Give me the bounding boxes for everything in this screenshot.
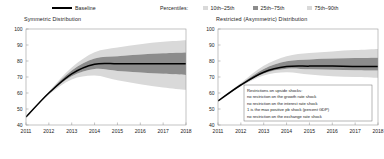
fan-chart-restricted: 4050607080901002011201220132014201520162…: [192, 25, 384, 151]
svg-text:40: 40: [17, 122, 23, 128]
legend-label-percentiles: Percentiles:: [160, 5, 188, 11]
legend-item-band-75-90: 75th–90th: [307, 5, 338, 11]
svg-text:40: 40: [209, 122, 215, 128]
legend-label-band-25-75: 25th–75th: [261, 5, 285, 11]
band-swatch-25-75: [253, 6, 258, 11]
panel-symmetric: Symmetric Distribution 40506070809010020…: [0, 16, 192, 159]
legend-item-band-25-75: 25th–75th: [253, 5, 284, 11]
legend-label-baseline: Baseline: [75, 5, 96, 11]
svg-text:no restriction on the interest: no restriction on the interest rate shoc…: [247, 101, 318, 106]
svg-text:100: 100: [14, 26, 23, 32]
svg-text:50: 50: [17, 106, 23, 112]
fan-chart-figure: Baseline Percentiles: 10th–25th 25th–75t…: [0, 0, 384, 159]
legend-percentiles-title: Percentiles:: [160, 5, 188, 11]
svg-text:80: 80: [209, 58, 215, 64]
svg-text:2016: 2016: [327, 128, 338, 134]
svg-text:2012: 2012: [43, 128, 54, 134]
svg-text:1 is the max positive pb shock: 1 is the max positive pb shock (percent …: [247, 107, 330, 112]
band-swatch-10-25: [203, 6, 208, 11]
plot-area-restricted: 4050607080901002011201220132014201520162…: [192, 25, 384, 151]
chart-legend: Baseline Percentiles: 10th–25th 25th–75t…: [0, 2, 384, 14]
svg-text:2011: 2011: [213, 128, 224, 134]
svg-text:2014: 2014: [89, 128, 100, 134]
svg-text:100: 100: [206, 26, 215, 32]
svg-text:2018: 2018: [180, 128, 191, 134]
svg-text:no restriction on the exchange: no restriction on the exchange rate shoc…: [247, 114, 323, 119]
plot-area-symmetric: 4050607080901002011201220132014201520162…: [0, 25, 192, 151]
svg-text:2011: 2011: [21, 128, 32, 134]
svg-text:no restriction on the growth r: no restriction on the growth rate shock: [247, 94, 317, 99]
legend-item-baseline: Baseline: [52, 5, 96, 11]
band-swatch-75-90: [307, 6, 312, 11]
svg-text:90: 90: [17, 42, 23, 48]
svg-text:70: 70: [209, 74, 215, 80]
svg-text:2018: 2018: [372, 128, 383, 134]
svg-text:50: 50: [209, 106, 215, 112]
svg-text:2017: 2017: [350, 128, 361, 134]
legend-item-band-10-25: 10th–25th: [203, 5, 234, 11]
panel-title-restricted: Restricted (Asymmetric) Distribution: [216, 16, 307, 22]
svg-text:80: 80: [17, 58, 23, 64]
svg-text:2015: 2015: [112, 128, 123, 134]
svg-text:2013: 2013: [66, 128, 77, 134]
svg-text:2015: 2015: [304, 128, 315, 134]
svg-text:2013: 2013: [258, 128, 269, 134]
svg-text:2014: 2014: [281, 128, 292, 134]
svg-text:60: 60: [17, 90, 23, 96]
panel-restricted: Restricted (Asymmetric) Distribution 405…: [192, 16, 384, 159]
svg-text:70: 70: [17, 74, 23, 80]
svg-text:2017: 2017: [158, 128, 169, 134]
legend-label-band-10-25: 10th–25th: [211, 5, 235, 11]
svg-text:60: 60: [209, 90, 215, 96]
baseline-line-swatch: [52, 7, 72, 9]
svg-text:Restrictions on upside shocks:: Restrictions on upside shocks:: [247, 88, 302, 93]
legend-label-band-75-90: 75th–90th: [315, 5, 339, 11]
svg-text:90: 90: [209, 42, 215, 48]
fan-chart-symmetric: 4050607080901002011201220132014201520162…: [0, 25, 192, 151]
panel-title-symmetric: Symmetric Distribution: [24, 16, 81, 22]
svg-text:2012: 2012: [235, 128, 246, 134]
svg-text:2016: 2016: [135, 128, 146, 134]
